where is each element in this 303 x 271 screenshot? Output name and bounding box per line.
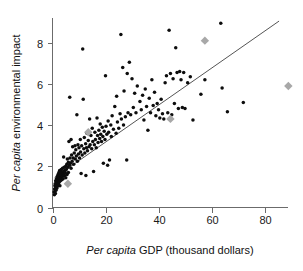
y-tick-label: 4	[37, 120, 43, 132]
data-point	[69, 167, 73, 171]
data-point	[134, 111, 138, 115]
data-point	[94, 138, 98, 142]
data-point	[97, 129, 101, 133]
data-point	[163, 81, 167, 85]
data-point	[84, 142, 88, 146]
data-point	[88, 143, 92, 147]
data-point	[158, 116, 162, 120]
data-point	[90, 147, 94, 151]
data-point	[64, 176, 68, 180]
data-point	[169, 72, 173, 76]
y-axis-ticks: 02468	[37, 38, 53, 215]
data-point	[141, 93, 145, 97]
data-point	[130, 77, 134, 81]
data-point	[93, 131, 97, 135]
data-point	[120, 117, 124, 121]
data-point	[151, 104, 155, 108]
scatter-chart-figure: 020406080 02468 Per capita GDP (thousand…	[0, 0, 303, 271]
data-point	[157, 108, 161, 112]
data-point	[54, 192, 58, 196]
data-point	[171, 77, 175, 81]
x-tick-label: 40	[153, 214, 165, 226]
data-point	[132, 106, 136, 110]
data-point	[191, 118, 195, 122]
data-point	[68, 96, 72, 100]
y-tick-label: 6	[37, 79, 43, 91]
x-tick-label: 0	[50, 214, 56, 226]
data-points-layer	[52, 21, 245, 196]
data-point	[96, 141, 100, 145]
data-point	[108, 158, 112, 162]
data-point	[68, 156, 72, 160]
data-point	[67, 171, 71, 175]
data-point	[79, 138, 83, 142]
data-point	[103, 138, 107, 142]
data-point	[91, 126, 95, 130]
data-point	[154, 114, 158, 118]
y-axis-title: Per capita environmental impact	[10, 34, 22, 191]
data-point	[220, 86, 224, 90]
highlighted-data-point	[284, 82, 292, 90]
regression-line	[55, 21, 279, 178]
data-point	[125, 72, 129, 76]
data-point	[98, 122, 102, 126]
data-point	[173, 102, 177, 106]
data-point	[109, 123, 113, 127]
data-point	[79, 150, 83, 154]
data-point	[106, 164, 110, 168]
data-point	[117, 126, 121, 130]
data-point	[102, 161, 106, 165]
data-point	[167, 29, 171, 33]
data-point	[80, 144, 84, 148]
y-tick-label: 2	[37, 161, 43, 173]
data-point	[153, 90, 157, 94]
data-point	[96, 134, 100, 138]
data-point	[136, 84, 140, 88]
data-point	[102, 130, 106, 134]
x-axis-title: Per capita GDP (thousand dollars)	[86, 244, 253, 256]
data-point	[106, 119, 110, 123]
data-point	[76, 159, 80, 163]
data-point	[155, 102, 159, 106]
chart-canvas: 020406080 02468 Per capita GDP (thousand…	[0, 0, 303, 271]
data-point	[177, 107, 181, 111]
highlighted-data-point	[64, 180, 72, 188]
data-point	[199, 92, 203, 96]
data-point	[162, 117, 166, 121]
data-point	[93, 143, 97, 147]
data-point	[104, 74, 108, 78]
data-point	[147, 97, 151, 101]
highlighted-data-point	[166, 115, 174, 123]
data-point	[144, 87, 148, 91]
data-point	[183, 107, 187, 111]
data-point	[107, 131, 111, 135]
data-point	[219, 21, 223, 25]
data-point	[76, 143, 80, 147]
data-point	[75, 113, 79, 117]
data-point	[165, 74, 169, 78]
data-point	[84, 174, 88, 178]
data-point	[58, 184, 62, 188]
data-point	[113, 105, 117, 109]
highlighted-data-point	[201, 36, 209, 44]
data-point	[100, 140, 104, 144]
data-point	[174, 46, 178, 50]
y-tick-label: 8	[37, 38, 43, 50]
y-tick-label: 0	[37, 203, 43, 215]
data-point	[121, 66, 125, 70]
data-point	[122, 123, 126, 127]
data-point	[81, 47, 85, 51]
data-point	[129, 113, 133, 117]
data-point	[142, 118, 146, 122]
data-point	[86, 149, 90, 153]
data-point	[182, 71, 186, 75]
data-point	[72, 162, 76, 166]
data-point	[116, 120, 120, 124]
data-point	[150, 78, 154, 82]
data-point	[118, 112, 122, 116]
x-tick-label: 80	[259, 214, 271, 226]
data-point	[62, 155, 66, 159]
data-point	[159, 98, 163, 102]
data-point	[88, 117, 92, 121]
data-point	[83, 136, 87, 140]
